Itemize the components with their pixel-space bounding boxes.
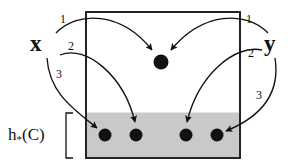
edge-number-left-3: 3 (56, 68, 62, 80)
edge-number-left-1: 1 (60, 13, 66, 25)
band-node-1 (99, 129, 112, 142)
edge-number-right-1: 1 (246, 13, 252, 25)
band-node-3 (180, 129, 193, 142)
edge-number-right-3: 3 (256, 89, 262, 101)
band-node-4 (211, 129, 224, 142)
center-node (154, 55, 169, 70)
edge-number-right-2: 2 (248, 47, 254, 59)
label-y: y (264, 32, 276, 55)
band-node-2 (130, 129, 143, 142)
figure-canvas: x y h*(C) 1 2 3 1 2 3 (0, 0, 297, 164)
label-x: x (30, 32, 42, 55)
edge-number-left-2: 2 (68, 40, 74, 52)
h-argument: (C) (22, 125, 45, 144)
band-brace (66, 113, 73, 158)
label-h-star-c: h*(C) (8, 126, 45, 145)
h-base: h (8, 125, 17, 144)
